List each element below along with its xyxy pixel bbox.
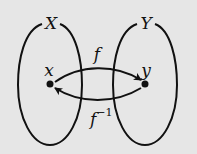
point-y-label: y xyxy=(140,60,151,80)
set-y-label: Y xyxy=(140,13,153,33)
point-x-label: x xyxy=(44,60,54,80)
point-x xyxy=(47,81,54,88)
arrow-f-label: f xyxy=(92,44,103,64)
arrow-f xyxy=(55,68,141,82)
point-y xyxy=(142,81,149,88)
arrow-f-inverse-label: f−1 xyxy=(88,106,113,129)
function-inverse-diagram: X Y f f−1 x y xyxy=(0,0,197,154)
arrow-f-inverse xyxy=(55,88,141,100)
arrow-f-inverse-superscript: −1 xyxy=(96,106,112,119)
set-x-label: X xyxy=(43,13,58,33)
